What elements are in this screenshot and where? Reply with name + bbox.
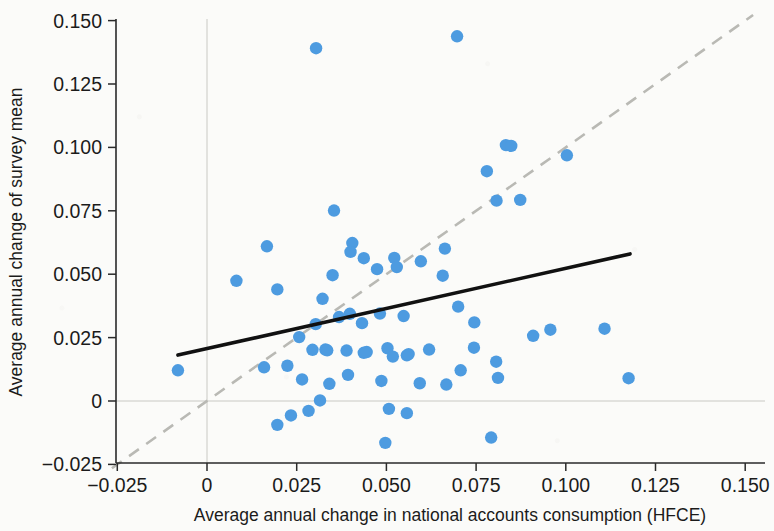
data-point: [561, 149, 573, 161]
x-tick-label: −0.025: [87, 474, 147, 496]
y-tick-label: 0.025: [53, 327, 102, 349]
identity-reference-line: [112, 15, 753, 468]
data-point: [383, 403, 395, 415]
y-tick-label: 0.100: [53, 136, 102, 158]
y-tick-label: 0.075: [53, 200, 102, 222]
data-point: [454, 364, 466, 376]
y-tick-label: 0: [91, 390, 102, 412]
data-point: [323, 378, 335, 390]
data-point: [271, 283, 283, 295]
data-point: [481, 165, 493, 177]
data-point: [296, 373, 308, 385]
y-tick-label: 0.150: [53, 10, 102, 32]
data-point: [371, 263, 383, 275]
data-point: [437, 270, 449, 282]
gridlines-group: [116, 19, 765, 463]
x-tick-label: 0: [202, 474, 213, 496]
data-point: [397, 310, 409, 322]
plot-canvas: −0.02500.0250.0500.0750.1000.1250.150 −0…: [0, 0, 774, 531]
data-point: [452, 300, 464, 312]
y-tick-label: 0.050: [53, 263, 102, 285]
data-point: [527, 330, 539, 342]
data-point: [340, 344, 352, 356]
x-tick-label: 0.100: [541, 474, 590, 496]
data-point: [468, 316, 480, 328]
data-point: [310, 42, 322, 54]
data-point: [439, 242, 451, 254]
data-point: [490, 355, 502, 367]
data-point: [321, 344, 333, 356]
scatter-plot-figure: −0.02500.0250.0500.0750.1000.1250.150 −0…: [0, 0, 774, 531]
data-point: [514, 194, 526, 206]
data-point: [326, 269, 338, 281]
data-point: [387, 350, 399, 362]
y-tick-label: 0.125: [53, 73, 102, 95]
data-point: [281, 360, 293, 372]
data-point: [379, 437, 391, 449]
data-point: [598, 323, 610, 335]
data-point: [492, 372, 504, 384]
data-point: [401, 407, 413, 419]
data-point: [485, 431, 497, 443]
data-point: [423, 343, 435, 355]
data-point: [468, 342, 480, 354]
data-point: [172, 364, 184, 376]
data-point: [402, 348, 414, 360]
data-point: [261, 240, 273, 252]
data-point: [622, 372, 634, 384]
x-tick-label: 0.025: [272, 474, 321, 496]
x-axis-title: Average annual change in national accoun…: [194, 505, 706, 525]
data-point: [505, 140, 517, 152]
data-point: [293, 331, 305, 343]
data-point: [440, 378, 452, 390]
data-point: [544, 324, 556, 336]
data-point: [302, 405, 314, 417]
fit-line-group: [178, 254, 630, 355]
data-point: [414, 377, 426, 389]
x-tick-label: 0.150: [721, 474, 770, 496]
y-tick-labels-group: −0.02500.0250.0500.0750.1000.1250.150: [42, 10, 102, 476]
data-point: [391, 261, 403, 273]
data-point: [360, 346, 372, 358]
data-point: [230, 275, 242, 287]
data-point: [375, 375, 387, 387]
data-point: [344, 246, 356, 258]
data-point: [306, 344, 318, 356]
data-point: [316, 293, 328, 305]
data-point: [490, 194, 502, 206]
data-point: [314, 394, 326, 406]
regression-fit-line: [178, 254, 630, 355]
identity-line-group: [112, 15, 753, 468]
data-point: [451, 30, 463, 42]
data-point: [258, 361, 270, 373]
x-tick-labels-group: −0.02500.0250.0500.0750.1000.1250.150: [87, 474, 770, 496]
data-point: [415, 255, 427, 267]
data-point: [285, 409, 297, 421]
data-point: [356, 317, 368, 329]
data-point: [358, 252, 370, 264]
x-tick-label: 0.075: [452, 474, 501, 496]
data-point: [342, 369, 354, 381]
data-point: [271, 419, 283, 431]
data-point: [328, 204, 340, 216]
data-points-group: [172, 30, 635, 449]
x-tick-label: 0.050: [362, 474, 411, 496]
y-tick-label: −0.025: [42, 453, 102, 475]
x-tick-label: 0.125: [631, 474, 680, 496]
y-axis-title: Average annual change of survey mean: [6, 87, 26, 396]
